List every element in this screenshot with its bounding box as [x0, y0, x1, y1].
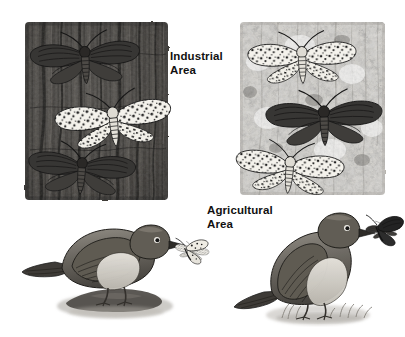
label-agricultural-area: Agricultural Area: [207, 204, 273, 231]
label-industrial-area: Industrial Area: [170, 50, 223, 77]
peppered-moth-figure: Industrial Area Agricultural Area: [0, 0, 405, 337]
